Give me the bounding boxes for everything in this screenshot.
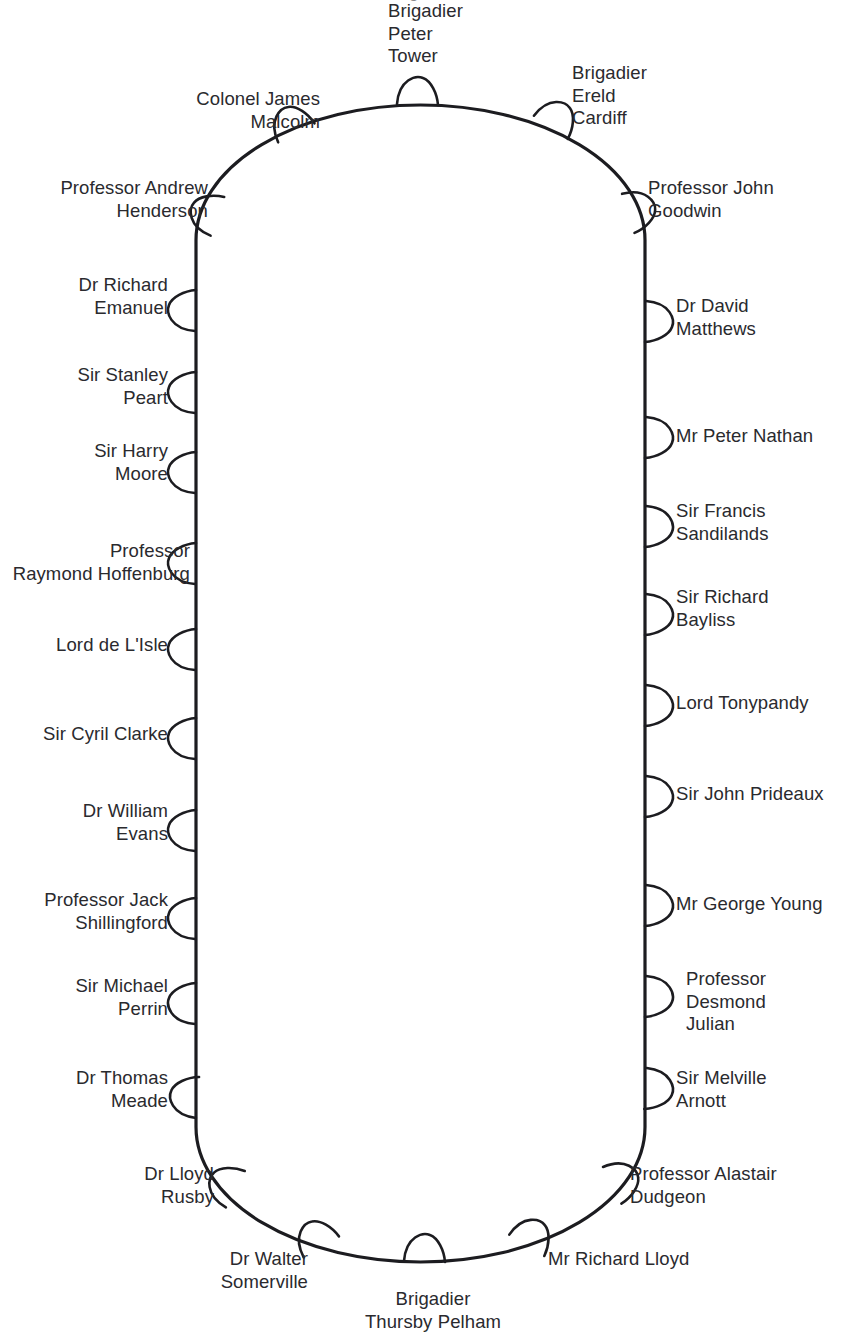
chair-arc xyxy=(168,983,196,1024)
chair-arc xyxy=(168,372,196,413)
chair-arc xyxy=(644,1068,673,1110)
seat-lord-de-lisle[interactable]: Lord de L'Isle xyxy=(12,634,168,657)
seat-mr-george-young[interactable]: Mr George Young xyxy=(676,893,843,916)
chair-arc xyxy=(645,976,673,1017)
seat-sir-john-prideaux[interactable]: Sir John Prideaux xyxy=(676,783,843,806)
chair-icon xyxy=(168,629,196,670)
seating-plan-diagram: Brigadier Brigadier Peter TowerColonel J… xyxy=(0,0,843,1340)
chair-arc xyxy=(168,810,196,851)
chair-arc xyxy=(168,290,196,331)
chair-icon xyxy=(645,685,673,726)
seat-colonel-james-malcolm[interactable]: Colonel James Malcolm xyxy=(120,88,320,133)
chair-icon xyxy=(168,810,196,851)
seat-mr-richard-lloyd[interactable]: Mr Richard Lloyd xyxy=(548,1248,728,1271)
seat-dr-thomas-meade[interactable]: Dr Thomas Meade xyxy=(30,1067,168,1112)
seat-sir-richard-bayliss[interactable]: Sir Richard Bayliss xyxy=(676,586,836,631)
seat-brigadier-peter-tower[interactable]: Brigadier Peter Tower xyxy=(388,0,518,68)
chair-arc xyxy=(397,77,438,105)
seat-brigadier-thursby-pelham[interactable]: Brigadier Thursby Pelham xyxy=(353,1288,513,1333)
chair-arc xyxy=(168,452,196,493)
seat-sir-melville-arnott[interactable]: Sir Melville Arnott xyxy=(676,1067,826,1112)
chair-arc xyxy=(645,506,673,547)
seat-professor-jack-shillingford[interactable]: Professor Jack Shillingford xyxy=(12,889,168,934)
chair-icon xyxy=(644,1068,673,1110)
chair-icon xyxy=(645,594,673,635)
seat-dr-william-evans[interactable]: Dr William Evans xyxy=(30,800,168,845)
seat-professor-desmond-julian[interactable]: Professor Desmond Julian xyxy=(686,968,836,1036)
chair-arc xyxy=(645,776,673,817)
chair-arc xyxy=(645,885,673,926)
chair-icon xyxy=(168,372,196,413)
chair-arc xyxy=(168,898,196,939)
chair-arc xyxy=(645,301,673,342)
seat-dr-david-matthews[interactable]: Dr David Matthews xyxy=(676,295,836,340)
chair-icon xyxy=(168,983,196,1024)
chair-icon xyxy=(645,885,673,926)
chair-arc xyxy=(168,629,196,670)
seat-professor-john-goodwin[interactable]: Professor John Goodwin xyxy=(648,177,838,222)
seat-sir-cyril-clarke[interactable]: Sir Cyril Clarke xyxy=(12,723,168,746)
seat-dr-richard-emanuel[interactable]: Dr Richard Emanuel xyxy=(30,274,168,319)
seat-professor-andrew-henderson[interactable]: Professor Andrew Henderson xyxy=(22,177,208,222)
seat-sir-michael-perrin[interactable]: Sir Michael Perrin xyxy=(30,975,168,1020)
table-outline-path xyxy=(196,105,645,1262)
chair-icon xyxy=(645,417,673,458)
chair-icon xyxy=(645,776,673,817)
seat-professor-raymond-hoffenburg[interactable]: Professor Raymond Hoffenburg xyxy=(0,540,190,585)
chair-icon xyxy=(645,301,673,342)
chair-icon xyxy=(168,898,196,939)
seat-dr-walter-somerville[interactable]: Dr Walter Somerville xyxy=(150,1248,308,1293)
chair-icon xyxy=(645,976,673,1017)
seat-mr-peter-nathan[interactable]: Mr Peter Nathan xyxy=(676,425,843,448)
seat-dr-lloyd-rusby[interactable]: Dr Lloyd Rusby xyxy=(86,1163,214,1208)
chair-arc xyxy=(645,417,673,458)
seat-sir-stanley-peart[interactable]: Sir Stanley Peart xyxy=(30,364,168,409)
chair-icon xyxy=(168,718,196,759)
chair-icon xyxy=(397,77,438,105)
chair-icon xyxy=(645,506,673,547)
seat-lord-tonypandy[interactable]: Lord Tonypandy xyxy=(676,692,843,715)
chair-arc xyxy=(645,685,673,726)
chair-arc xyxy=(645,594,673,635)
seat-professor-alastair-dudgeon[interactable]: Professor Alastair Dudgeon xyxy=(630,1163,820,1208)
chair-arc xyxy=(168,718,196,759)
seat-brigadier-ereld-cardiff[interactable]: Brigadier Ereld Cardiff xyxy=(572,62,722,130)
seat-sir-francis-sandilands[interactable]: Sir Francis Sandilands xyxy=(676,500,836,545)
chair-icon xyxy=(168,452,196,493)
seat-sir-harry-moore[interactable]: Sir Harry Moore xyxy=(30,440,168,485)
chair-icon xyxy=(168,290,196,331)
